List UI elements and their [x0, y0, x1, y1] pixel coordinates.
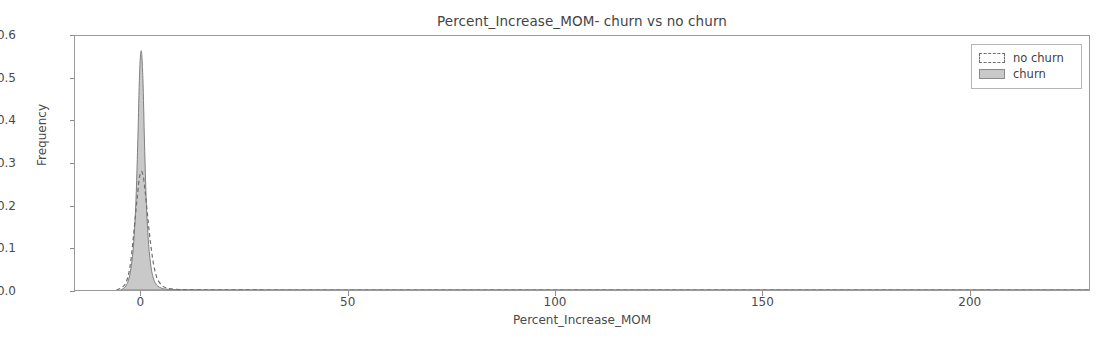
x-tick-label: 50: [318, 296, 378, 308]
y-tick-label: 0.6: [0, 29, 16, 41]
density-curves: [75, 36, 1089, 290]
x-tick-label: 150: [732, 296, 792, 308]
y-tick-label: 0.5: [0, 72, 16, 84]
no-churn-density-line: [116, 171, 1089, 290]
x-tick-mark: [140, 291, 141, 296]
page-title: Percent_Increase_MOM- churn vs no churn: [74, 13, 1090, 29]
legend-item-churn[interactable]: churn: [979, 66, 1075, 82]
churn-density-area: [121, 51, 1089, 290]
y-axis-label: Frequency: [35, 75, 49, 195]
legend-label-no-churn: no churn: [1013, 51, 1064, 65]
x-tick-mark: [762, 291, 763, 296]
y-tick-label: 0.4: [0, 114, 16, 126]
figure-canvas: Percent_Increase_MOM- churn vs no churn …: [0, 0, 1107, 345]
y-tick-label: 0.3: [0, 157, 16, 169]
y-tick-label: 0.1: [0, 242, 16, 254]
x-tick-label: 200: [940, 296, 1000, 308]
x-tick-label: 100: [525, 296, 585, 308]
y-tick-label: 0.2: [0, 200, 16, 212]
legend: no churn churn: [971, 44, 1082, 89]
y-tick-mark: [70, 291, 75, 292]
x-tick-mark: [555, 291, 556, 296]
x-tick-mark: [970, 291, 971, 296]
y-tick-label: 0.0: [0, 285, 16, 297]
x-tick-label: 0: [110, 296, 170, 308]
plot-area: [74, 35, 1090, 291]
legend-label-churn: churn: [1013, 67, 1046, 81]
legend-item-no-churn[interactable]: no churn: [979, 50, 1075, 66]
x-tick-mark: [348, 291, 349, 296]
legend-swatch-no-churn-icon: [979, 53, 1005, 63]
x-axis-label: Percent_Increase_MOM: [74, 313, 1090, 327]
legend-swatch-churn-icon: [979, 69, 1005, 79]
